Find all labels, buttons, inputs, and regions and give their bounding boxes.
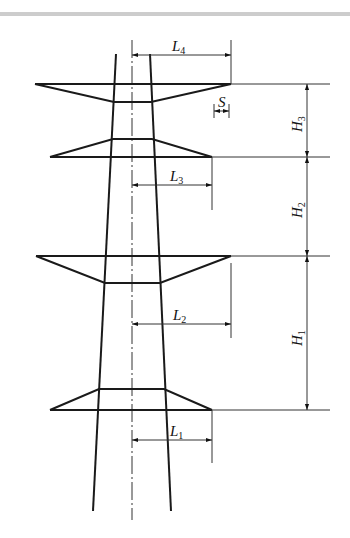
- label-H2: H2: [289, 202, 307, 219]
- level-extension-lines: [212, 84, 330, 410]
- label-S: S: [218, 94, 226, 110]
- label-L2: L2: [172, 307, 186, 325]
- label-L1: L1: [169, 423, 183, 441]
- label-L3: L3: [169, 168, 183, 186]
- label-H3: H3: [289, 116, 307, 133]
- crossarm-2: [36, 256, 231, 283]
- page-top-rule: [0, 13, 350, 15]
- crossarm-1-bottom: [50, 389, 212, 410]
- label-L4: L4: [171, 38, 185, 56]
- tower-diagram: L4 S L3 L2 L1 H3 H2 H1: [0, 0, 350, 538]
- crossarm-4-top: [35, 84, 231, 102]
- crossarm-3: [50, 139, 212, 157]
- label-H1: H1: [289, 330, 307, 347]
